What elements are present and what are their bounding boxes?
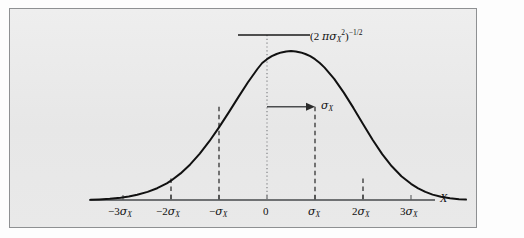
tick-sigma: σ — [215, 205, 223, 218]
sigma-arrow-label: σX — [321, 99, 333, 113]
tick-sub: X — [316, 210, 321, 219]
sigma-arrow-symbol: σ — [321, 99, 329, 112]
tick-sub: X — [175, 210, 180, 219]
peak-label-exponent: −1/2 — [349, 28, 363, 37]
gaussian-curve — [91, 51, 466, 200]
tick-coef: 0 — [263, 205, 269, 217]
peak-label-sigma: σ — [329, 30, 337, 43]
tick-label-zero: 0 — [263, 205, 269, 219]
tick-label-minus-3-sigma: −3σX — [108, 205, 132, 219]
tick-label-plus-2-sigma: 2σX — [352, 205, 370, 219]
figure-plate: (2 πσX2)−1/2 σX X −3σX −2σX −σX 0 σX 2σX… — [9, 8, 477, 228]
peak-value-label: (2 πσX2)−1/2 — [310, 28, 363, 44]
tick-label-plus-3-sigma: 3σX — [400, 205, 418, 219]
tick-label-plus-1-sigma: σX — [308, 205, 320, 219]
peak-label-prefix: (2 — [310, 30, 322, 42]
tick-sub: X — [365, 210, 370, 219]
figure-root: Combining μ and σ — [0, 0, 524, 238]
tick-sigma: σ — [308, 205, 316, 218]
sigma-arrow-sub: X — [329, 104, 334, 113]
tick-label-minus-2-sigma: −2σX — [156, 205, 180, 219]
sigma-arrow — [267, 103, 315, 111]
tick-sub: X — [223, 210, 228, 219]
tick-sub: X — [127, 210, 132, 219]
normal-distribution-plot — [10, 9, 476, 227]
tick-sub: X — [413, 210, 418, 219]
x-axis-label: X — [440, 191, 447, 206]
tick-sigma: σ — [406, 205, 414, 218]
tick-label-minus-1-sigma: −σX — [209, 205, 227, 219]
tick-sigma: σ — [358, 205, 366, 218]
